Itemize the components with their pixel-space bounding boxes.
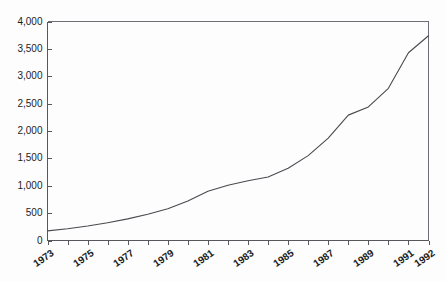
chart-figure: 05001,0001,5002,0002,5003,0003,5004,000 … [0, 0, 446, 281]
y-tick-label: 0 [37, 236, 43, 246]
data-series-line [48, 36, 429, 231]
y-axis-ticks [48, 23, 52, 242]
y-tick-label: 2,000 [17, 126, 42, 136]
y-tick-label: 1,000 [17, 181, 42, 191]
y-tick-label: 4,000 [17, 17, 42, 27]
plot-frame [48, 22, 429, 241]
x-axis-ticks [49, 241, 430, 245]
y-tick-label: 2,500 [17, 99, 42, 109]
y-tick-label: 3,000 [17, 71, 42, 81]
line-chart-plot [0, 0, 446, 281]
y-tick-label: 1,500 [17, 153, 42, 163]
y-tick-label: 3,500 [17, 44, 42, 54]
y-tick-label: 500 [26, 208, 43, 218]
